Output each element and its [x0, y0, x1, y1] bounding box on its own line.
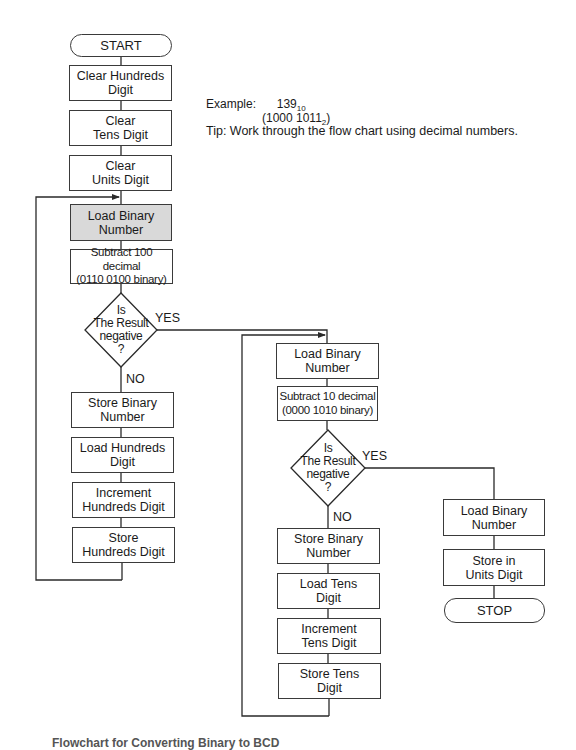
- stop-terminal: STOP: [444, 598, 545, 623]
- tip-note: Tip: Work through the flow chart using d…: [206, 124, 518, 138]
- start-terminal: START: [70, 34, 172, 57]
- subtract-10-step: Subtract 10 decimal (0000 1010 binary): [277, 386, 378, 421]
- clear-hundreds-step: Clear Hundreds Digit: [69, 65, 172, 101]
- clear-units-step: Clear Units Digit: [69, 155, 172, 191]
- decision-hundreds-negative: Is The Result negative ?: [85, 304, 157, 356]
- yes-label-hundreds: YES: [155, 311, 180, 325]
- clear-tens-step: Clear Tens Digit: [69, 110, 172, 146]
- increment-hundreds-step: Increment Hundreds Digit: [72, 482, 175, 518]
- example-label: Example:: [206, 97, 256, 111]
- load-binary-step-tens: Load Binary Number: [276, 343, 379, 379]
- store-binary-step-hundreds: Store Binary Number: [71, 392, 174, 428]
- no-label-tens: NO: [333, 510, 352, 524]
- decision-tens-negative: Is The Result negative ?: [291, 442, 365, 494]
- store-tens-step: Store Tens Digit: [278, 663, 381, 699]
- store-binary-step-tens: Store Binary Number: [277, 528, 380, 564]
- load-binary-step-units: Load Binary Number: [443, 499, 545, 536]
- subtract-100-step: Subtract 100 decimal (0110 0100 binary): [70, 249, 173, 284]
- yes-label-tens: YES: [362, 449, 387, 463]
- example-binary-close: ): [326, 111, 330, 125]
- figure-caption: Flowchart for Converting Binary to BCD: [52, 736, 279, 750]
- no-label-hundreds: NO: [126, 372, 145, 386]
- load-tens-step: Load Tens Digit: [277, 573, 380, 609]
- store-hundreds-step: Store Hundreds Digit: [72, 527, 175, 563]
- store-units-step: Store in Units Digit: [443, 549, 545, 586]
- example-decimal: 139: [277, 97, 297, 111]
- increment-tens-step: Increment Tens Digit: [277, 618, 381, 654]
- load-hundreds-step: Load Hundreds Digit: [71, 437, 174, 473]
- load-binary-step-hundreds: Load Binary Number: [70, 204, 172, 241]
- example-binary: (1000 1011: [262, 111, 322, 125]
